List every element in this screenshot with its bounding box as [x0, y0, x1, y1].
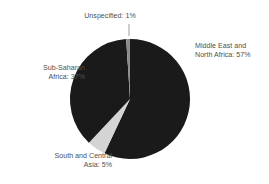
pie-label-unspecified-line1: Unspecified: 1% [60, 12, 160, 21]
pie-label-middle-east-and-north-africa-line2: North Africa: 57% [195, 51, 269, 60]
pie-label-sub-saharan-africa-line1: Sub-Saharan [5, 64, 85, 73]
pie-label-middle-east-and-north-africa-line1: Middle East and [195, 42, 269, 51]
pie-label-middle-east-and-north-africa: Middle East and North Africa: 57% [195, 42, 269, 59]
pie-label-south-and-central-asia: South and Central Asia: 5% [12, 152, 112, 169]
pie-label-south-and-central-asia-line1: South and Central [12, 152, 112, 161]
pie-label-sub-saharan-africa-line2: Africa: 37% [5, 73, 85, 82]
pie-chart-figure: Unspecified: 1% Middle East and North Af… [0, 0, 269, 184]
pie-label-unspecified: Unspecified: 1% [60, 12, 160, 21]
pie-label-sub-saharan-africa: Sub-Saharan Africa: 37% [5, 64, 85, 81]
pie-label-south-and-central-asia-line2: Asia: 5% [12, 161, 112, 170]
